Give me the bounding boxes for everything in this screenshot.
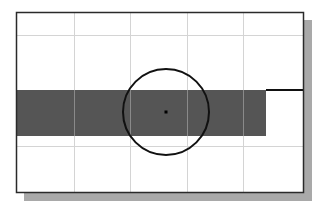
drawing-canvas: [0, 0, 326, 213]
cad-viewport: [0, 0, 326, 213]
center-point-marker: [165, 111, 168, 114]
filled-rectangle: [17, 90, 266, 136]
